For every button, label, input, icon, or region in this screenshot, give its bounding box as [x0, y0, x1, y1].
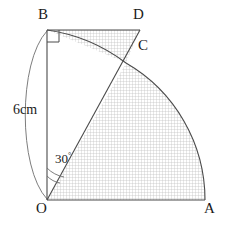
point-label-C: C	[138, 38, 148, 53]
point-label-O: O	[36, 201, 47, 216]
angle-value: 30	[55, 151, 68, 166]
radius-dimension-label: 6cm	[13, 103, 37, 117]
degree-symbol: °	[68, 151, 71, 160]
shaded-region-sector	[47, 63, 205, 200]
point-label-B: B	[38, 7, 48, 22]
point-label-A: A	[204, 201, 215, 216]
geometry-figure: B D C O A 6cm 30°	[0, 0, 241, 226]
point-label-D: D	[133, 7, 144, 22]
shaded-region-upper	[47, 30, 140, 63]
angle-label-30: 30°	[55, 152, 71, 165]
